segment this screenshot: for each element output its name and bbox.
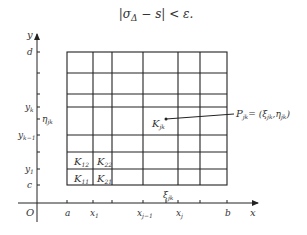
x-tick-b: b: [225, 208, 231, 218]
origin-label: O: [26, 207, 34, 218]
cell-label-k11: K11: [73, 173, 89, 185]
y-tick-yk: yk: [24, 102, 34, 113]
x-tick-a: a: [65, 208, 70, 218]
y-axis-label: y: [26, 29, 33, 40]
partition-grid: [67, 52, 227, 185]
y-tick-eta-jk: ηjk: [42, 114, 53, 126]
xi-jk-label: ξjk: [163, 190, 174, 202]
riemann-sum-formula: |σΔ − s| < ε.: [119, 7, 194, 23]
y-tick-d: d: [27, 47, 33, 57]
cell-label-k12: K12: [73, 156, 89, 168]
y-tick-y1: y1: [24, 164, 34, 175]
x-axis-label: x: [250, 207, 256, 218]
x-tick-xj-1: xj−1: [137, 208, 153, 220]
cell-label-k22: K22: [96, 156, 112, 168]
x-tick-xj: xj: [176, 208, 183, 220]
x-tick-x1: x1: [90, 208, 99, 219]
y-tick-yk-1: yk−1: [17, 130, 36, 141]
double-integral-partition-diagram: |σΔ − s| < ε. y x O d yk ηjk yk−1 y1 c a…: [0, 0, 307, 235]
cell-label-kjk: Kjk: [151, 118, 165, 131]
point-label-pjk: Pjk= (ξjk,ηjk): [235, 108, 290, 121]
cell-label-k21: K21: [96, 173, 112, 185]
y-tick-c: c: [27, 180, 32, 190]
